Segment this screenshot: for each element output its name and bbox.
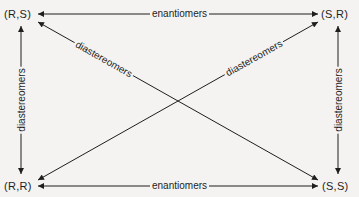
edge-label-bottom-enantiomers: enantiomers <box>150 180 209 191</box>
node-ss: (S,S) <box>322 180 349 192</box>
edge-label-left-diastereomers: diastereomers <box>16 66 27 133</box>
node-rr: (R,R) <box>4 180 32 192</box>
node-sr: (S,R) <box>321 8 348 20</box>
node-rs: (R,S) <box>4 8 31 20</box>
arrow-layer <box>0 0 359 197</box>
edge-label-top-enantiomers: enantiomers <box>150 8 209 19</box>
edge-label-right-diastereomers: diastereomers <box>333 66 344 133</box>
